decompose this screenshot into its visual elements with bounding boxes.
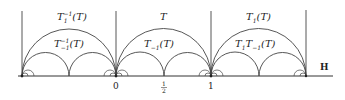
arc-small-6 — [259, 52, 306, 76]
label-Tminus1-T: T−1(T) — [144, 38, 174, 51]
tessellation-diagram: T1−1(T) T T1(T) T−1−1(T) T−1(T) T1T−1(T)… — [0, 0, 345, 100]
arc-small-3 — [116, 52, 164, 76]
svg-text:2: 2 — [162, 87, 166, 94]
label-T: T — [160, 11, 168, 22]
tick-label-half: 1 2 — [161, 80, 167, 94]
label-Tminus1-inv-T: T−1−1(T) — [54, 37, 84, 51]
arc-small-5 — [211, 52, 259, 76]
arc-small-2 — [69, 52, 116, 76]
cusp-dot-1 — [210, 75, 213, 78]
label-T1-inv-T: T1−1(T) — [57, 10, 87, 24]
label-T1-T: T1(T) — [246, 11, 271, 24]
tick-label-0: 0 — [113, 81, 119, 91]
tick-label-1: 1 — [208, 81, 214, 91]
arc-large-middle — [116, 29, 211, 77]
cusp-dot-2 — [305, 75, 307, 77]
svg-text:1: 1 — [162, 80, 166, 87]
arc-large-right — [211, 29, 306, 77]
arc-small-1 — [22, 52, 69, 76]
plane-label-H: H — [320, 62, 329, 72]
label-T1-Tminus1-T: T1T−1(T) — [235, 38, 276, 51]
cusp-dot-0 — [115, 75, 118, 78]
arc-small-4 — [164, 52, 211, 76]
cusp-dot-minus1 — [21, 75, 24, 78]
